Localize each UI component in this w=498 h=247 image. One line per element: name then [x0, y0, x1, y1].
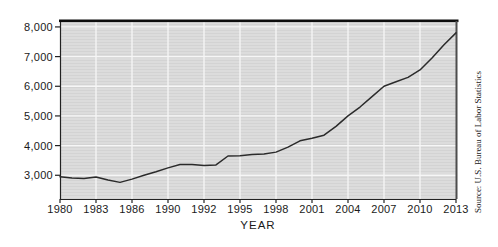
x-tick-label: 1980: [42, 202, 78, 216]
x-tick-label: 1983: [78, 202, 114, 216]
y-tick-label: 3,000: [0, 168, 53, 182]
y-tick-label: 6,000: [0, 79, 53, 93]
y-tick-label: 4,000: [0, 139, 53, 153]
x-tick-label: 1986: [114, 202, 150, 216]
x-tick-label: 2007: [366, 202, 402, 216]
x-tick-label: 2004: [330, 202, 366, 216]
x-tick-label: 1992: [186, 202, 222, 216]
x-tick-label: 2013: [438, 202, 474, 216]
y-tick-label: 8,000: [0, 20, 53, 34]
x-tick-label: 1998: [258, 202, 294, 216]
x-tick-label: 1990: [150, 202, 186, 216]
source-note: Source: U.S. Bureau of Labor Statistics: [473, 71, 483, 213]
x-axis-title: YEAR: [60, 219, 456, 231]
x-tick-label: 2001: [294, 202, 330, 216]
x-tick-label: 2010: [402, 202, 438, 216]
x-tick-label: 1995: [222, 202, 258, 216]
y-tick-label: 7,000: [0, 50, 53, 64]
line-chart-figure: 8,0007,0006,0005,0004,0003,000 198019831…: [0, 0, 498, 247]
y-tick-label: 5,000: [0, 109, 53, 123]
